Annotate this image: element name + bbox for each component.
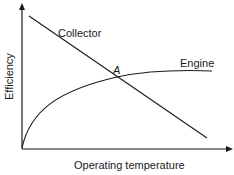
engine-label: Engine xyxy=(180,57,214,69)
y-axis-arrow-icon xyxy=(19,3,25,10)
x-axis-label: Operating temperature xyxy=(74,159,185,171)
engine-curve xyxy=(22,71,212,148)
collector-label: Collector xyxy=(58,27,102,39)
efficiency-diagram: Collector Engine A Operating temperature… xyxy=(0,0,234,175)
point-a-label: A xyxy=(112,64,120,76)
x-axis-arrow-icon xyxy=(226,146,233,152)
y-axis-label: Efficiency xyxy=(3,53,15,100)
